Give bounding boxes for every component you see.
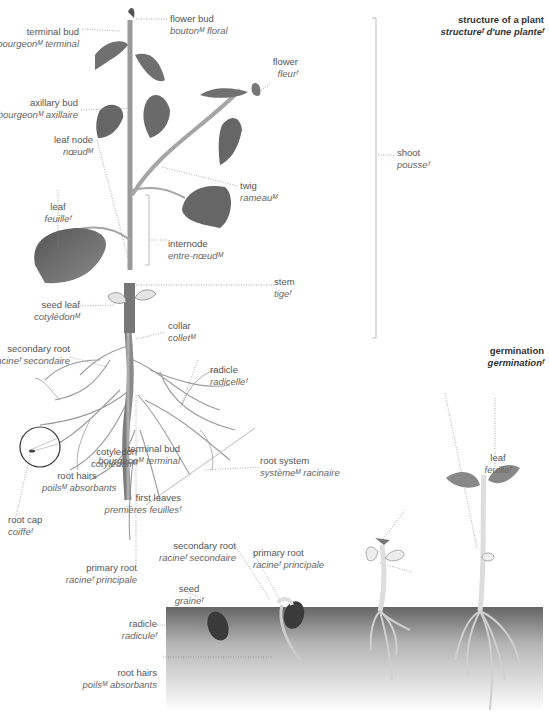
plant-diagram: structure of a plant structureᶠ d'une pl… [0, 0, 549, 716]
section-title-structure: structure of a plant structureᶠ d'une pl… [441, 14, 544, 38]
label-terminal-bud: terminal bud bourgeonᴹ terminal [0, 26, 79, 50]
label-germ-secondary-root: secondary root racineᶠ secondaire [159, 540, 236, 564]
internode-bracket [145, 195, 149, 265]
shoot-bracket [372, 18, 376, 338]
label-root-system: root system systèmeᴹ racinaire [260, 455, 340, 479]
label-germ-first-leaves: first leaves premières feuillesᶠ [105, 492, 181, 516]
label-germ-leaf: leaf feuilleᶠ [484, 452, 512, 476]
label-germ-radicle: radicle radiculeᶠ [122, 618, 157, 642]
label-root-hairs: root hairs poilsᴹ absorbants [42, 470, 112, 494]
large-leaf [34, 228, 106, 283]
label-primary-root: primary root racineᶠ principale [66, 562, 137, 586]
label-shoot: shoot pousseᶠ [397, 147, 430, 171]
label-root-cap: root cap coiffeᶠ [8, 514, 42, 538]
label-flower: flower fleurᶠ [273, 56, 298, 80]
label-germ-seed: seed graineᶠ [172, 583, 206, 607]
plant-illustration [0, 0, 549, 716]
label-germ-root-hairs: root hairs poilsᴹ absorbants [83, 667, 157, 691]
label-seed-leaf: seed leaf cotylédonᴹ [34, 299, 80, 323]
label-germ-primary-root: primary root racineᶠ principale [253, 547, 324, 571]
label-radicle: radicle radicelleᶠ [210, 364, 247, 388]
label-leaf: leaf feuilleᶠ [38, 201, 78, 225]
label-flower-bud: flower bud boutonᴹ floral [170, 13, 228, 37]
label-stem: stem tigeᶠ [274, 276, 295, 300]
label-collar: collar colletᴹ [168, 320, 195, 344]
label-axillary-bud: axillary bud bourgeonᴹ axillaire [0, 97, 78, 121]
label-germ-cotyledon: cotyledon cotylédonᴹ [91, 446, 137, 470]
section-title-germination: germination germinationᶠ [488, 345, 544, 369]
label-internode: internode entre-nœudᴹ [168, 238, 223, 262]
label-leaf-node: leaf node nœudᴹ [54, 134, 93, 158]
label-twig: twig rameauᴹ [240, 180, 277, 204]
label-secondary-root: secondary root racineᶠ secondaire [0, 343, 70, 367]
